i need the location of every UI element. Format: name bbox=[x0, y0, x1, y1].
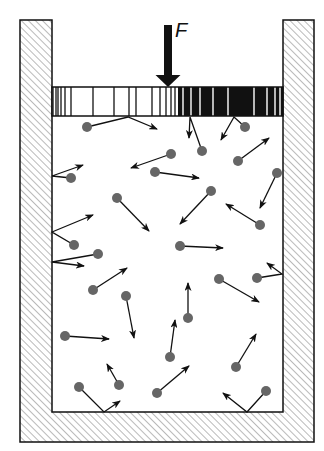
velocity-arrow-icon bbox=[236, 334, 256, 367]
molecule-dot bbox=[121, 291, 131, 301]
molecule-dot bbox=[114, 380, 124, 390]
gas-molecules bbox=[52, 117, 282, 412]
molecule-dot bbox=[233, 156, 243, 166]
molecule-dot bbox=[150, 167, 160, 177]
molecule-dot bbox=[60, 331, 70, 341]
molecule-dot bbox=[88, 285, 98, 295]
molecule-dot bbox=[74, 382, 84, 392]
molecule-dot bbox=[175, 241, 185, 251]
molecule bbox=[52, 215, 93, 250]
velocity-arrow-icon bbox=[93, 268, 127, 290]
velocity-arrow-icon bbox=[79, 387, 120, 412]
molecule bbox=[88, 268, 127, 295]
molecule-dot bbox=[183, 313, 193, 323]
velocity-arrow-icon bbox=[180, 246, 223, 248]
molecule bbox=[180, 186, 216, 224]
molecule-dot bbox=[82, 122, 92, 132]
diagram-stage: F bbox=[0, 0, 324, 451]
piston-cylinder-diagram bbox=[0, 0, 324, 451]
molecule bbox=[260, 168, 282, 208]
molecule bbox=[175, 241, 223, 251]
molecule bbox=[189, 117, 207, 156]
molecule-dot bbox=[112, 193, 122, 203]
molecule-dot bbox=[166, 149, 176, 159]
molecule-dot bbox=[165, 352, 175, 362]
piston bbox=[52, 87, 283, 116]
molecule bbox=[82, 117, 157, 132]
velocity-arrow-icon bbox=[226, 204, 260, 225]
molecule bbox=[121, 291, 134, 338]
molecule-dot bbox=[255, 220, 265, 230]
molecule bbox=[52, 165, 83, 183]
molecule bbox=[231, 334, 256, 372]
molecule bbox=[252, 263, 282, 283]
molecule bbox=[112, 193, 149, 231]
molecule-dot bbox=[240, 122, 250, 132]
molecule bbox=[165, 320, 175, 362]
molecule bbox=[131, 149, 176, 168]
velocity-arrow-icon bbox=[131, 154, 171, 168]
force-label: F bbox=[175, 20, 187, 40]
molecule-dot bbox=[197, 146, 207, 156]
velocity-arrow-icon bbox=[260, 173, 277, 208]
molecule bbox=[223, 386, 271, 412]
velocity-arrow-icon bbox=[219, 279, 259, 302]
molecule-dot bbox=[261, 386, 271, 396]
velocity-arrow-icon bbox=[189, 117, 202, 151]
velocity-arrow-icon bbox=[52, 254, 98, 266]
molecule bbox=[150, 167, 199, 178]
velocity-arrow-icon bbox=[126, 296, 134, 338]
molecule bbox=[183, 283, 193, 323]
molecule-dot bbox=[93, 249, 103, 259]
molecule-dot bbox=[66, 173, 76, 183]
molecule-dot bbox=[69, 240, 79, 250]
molecule bbox=[221, 117, 250, 140]
molecule bbox=[107, 364, 124, 390]
molecule bbox=[74, 382, 120, 412]
velocity-arrow-icon bbox=[180, 191, 211, 224]
velocity-arrow-icon bbox=[155, 172, 199, 178]
molecule-dot bbox=[206, 186, 216, 196]
molecule bbox=[226, 204, 265, 230]
molecule bbox=[152, 366, 189, 398]
molecule bbox=[60, 331, 109, 341]
molecule bbox=[233, 138, 269, 166]
molecule-dot bbox=[152, 388, 162, 398]
velocity-arrow-icon bbox=[170, 320, 175, 357]
velocity-arrow-icon bbox=[223, 391, 266, 412]
molecule-dot bbox=[272, 168, 282, 178]
velocity-arrow-icon bbox=[157, 366, 189, 393]
molecule-dot bbox=[214, 274, 224, 284]
velocity-arrow-icon bbox=[238, 138, 269, 161]
molecule-dot bbox=[252, 273, 262, 283]
molecule-dot bbox=[231, 362, 241, 372]
velocity-arrow-icon bbox=[87, 117, 157, 129]
velocity-arrow-icon bbox=[117, 198, 149, 231]
molecule bbox=[52, 249, 103, 266]
velocity-arrow-icon bbox=[65, 336, 109, 339]
